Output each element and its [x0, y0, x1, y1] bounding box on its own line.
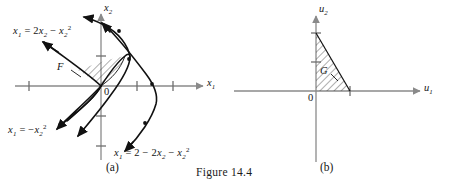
region-G-label: G	[320, 66, 328, 77]
panel-b	[234, 16, 420, 162]
region-F-label: F	[57, 62, 63, 73]
curve-x1-eq-2-minus-2x2-minus-x2sq	[104, 24, 157, 150]
equation-label-curve-3: x_1 = 2 - 2x_2 - x_2^2 x1 = 2 − 2x2 − x2…	[114, 148, 190, 159]
region-F-pointer	[71, 70, 81, 77]
curve-x1-eq-2x2-minus-x2sq-upper	[84, 17, 130, 57]
panel-b-x-axis-label: u1	[424, 83, 433, 94]
panel-b-y-axis-label: u2	[319, 4, 328, 15]
panel-a-tag: (a)	[106, 162, 119, 174]
figure-caption: Figure 14.4	[196, 166, 252, 178]
equation-label-curve-2: x_1 = -x_2^2 x1 = −x22	[8, 125, 47, 136]
figure-14-4: x_1 = 2x_2 - x_2^2 x1 = 2x2 − x22 x_1 = …	[0, 0, 451, 193]
curve-x1-eq-minus-x2sq-arrow-up	[43, 42, 58, 52]
panel-b-origin-label: 0	[308, 93, 313, 104]
panel-b-tag: (b)	[320, 162, 333, 174]
equation-label-curve-1: x_1 = 2x_2 - x_2^2 x1 = 2x2 − x22	[13, 26, 71, 37]
panel-a-x-axis-label: x1	[207, 78, 215, 89]
panel-a-y-axis-label: x2	[104, 3, 112, 14]
panel-a-origin-label: 0	[104, 87, 109, 98]
